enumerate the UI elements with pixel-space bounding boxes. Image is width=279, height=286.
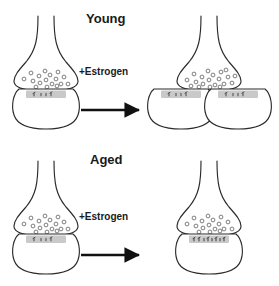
presynaptic-terminal — [177, 161, 241, 235]
postsynaptic-density — [26, 91, 66, 99]
aged-after-synapse — [176, 161, 243, 274]
young-before-synapse — [13, 16, 80, 129]
row-title-aged: Aged — [90, 152, 123, 167]
treatment-label-aged: +Estrogen — [79, 211, 128, 222]
postsynaptic-density — [218, 91, 258, 99]
synapse-estrogen-diagram — [0, 0, 279, 286]
postsynaptic-density — [189, 236, 229, 244]
postsynaptic-density — [26, 236, 66, 244]
aged-before-synapse — [13, 161, 80, 274]
presynaptic-terminal — [177, 16, 241, 90]
row-title-young: Young — [86, 11, 125, 26]
presynaptic-terminal — [14, 161, 78, 235]
young-after-synapse — [148, 16, 272, 129]
postsynaptic-density — [161, 91, 201, 99]
treatment-label-young: +Estrogen — [79, 66, 128, 77]
row-young — [13, 16, 272, 129]
presynaptic-terminal — [14, 16, 78, 90]
